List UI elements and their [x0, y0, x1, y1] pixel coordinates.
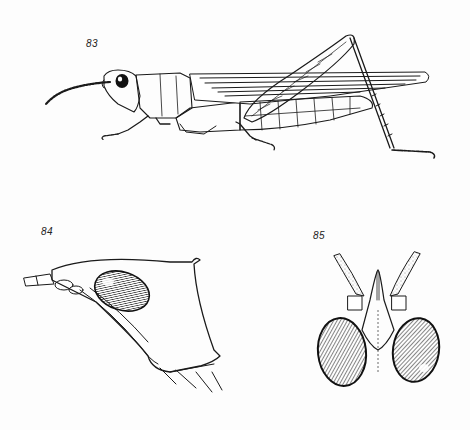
- figure-84-head-lateral: [24, 258, 222, 392]
- hind-tibia: [350, 38, 435, 158]
- antenna: [46, 82, 110, 104]
- figure-plate: 83 84 85: [0, 0, 470, 430]
- figure-83-grasshopper: [46, 35, 435, 158]
- forewing: [190, 72, 429, 104]
- front-leg: [102, 116, 170, 140]
- figure-85-head-dorsal: [315, 252, 444, 388]
- illustrations: [0, 0, 470, 430]
- head: [102, 70, 140, 112]
- middle-leg: [236, 122, 275, 150]
- abdomen: [240, 96, 373, 130]
